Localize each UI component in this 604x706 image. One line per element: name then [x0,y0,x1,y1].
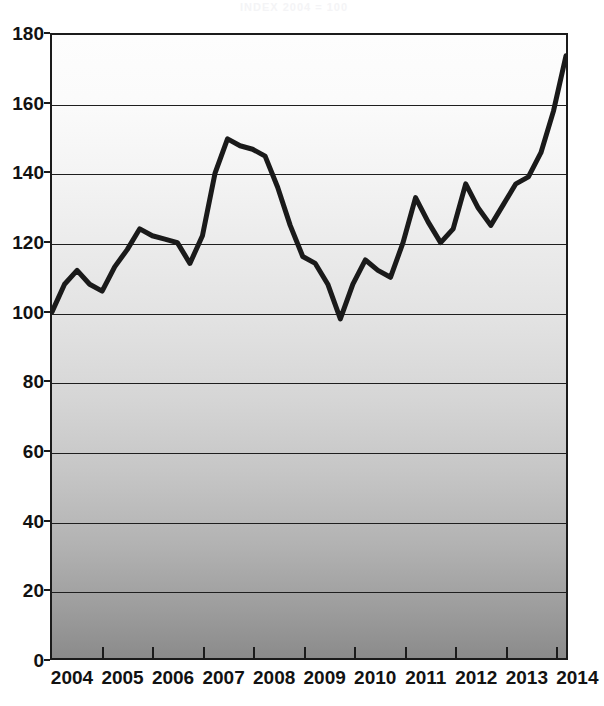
chart-title: INDEX 2004 = 100 [0,0,588,16]
y-axis-tick-label: 40 [0,512,44,531]
y-axis-tick-label: 80 [0,372,44,391]
line-series-path [52,56,566,319]
x-axis-tick-label: 2014 [547,668,604,687]
y-axis-tick-label: 20 [0,581,44,600]
y-axis-tick-label: 100 [0,303,44,322]
y-axis-tick-label: 120 [0,233,44,252]
y-axis-tick-label: 60 [0,442,44,461]
y-axis-tick-label: 160 [0,94,44,113]
y-axis-tick-label: 0 [0,651,44,670]
line-series-svg [52,35,566,658]
y-axis-tick-label: 180 [0,24,44,43]
y-axis-tick-label: 140 [0,163,44,182]
plot-area [50,33,568,660]
